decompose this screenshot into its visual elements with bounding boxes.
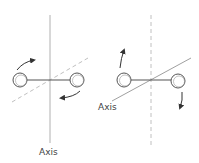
left-axis-label: Axis	[39, 148, 58, 157]
right-diagram	[112, 15, 191, 145]
left-rotation-arrow-top-icon	[17, 60, 34, 70]
left-rotation-arrow-bottom-icon	[61, 91, 80, 98]
diagram-canvas: Axis Axis	[0, 0, 199, 163]
right-rotation-arrow-bottom-icon	[180, 92, 182, 108]
left-diagram	[12, 15, 88, 143]
right-axis-label: Axis	[98, 103, 117, 112]
right-rotation-arrow-top-icon	[120, 50, 124, 68]
rotation-diagrams	[0, 0, 199, 163]
